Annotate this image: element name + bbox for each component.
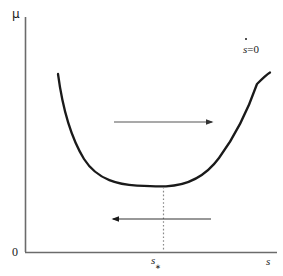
x-axis-label: s bbox=[266, 256, 270, 267]
isocline-label: s=0 bbox=[243, 44, 259, 55]
critical-point-subscript: ∗ bbox=[155, 263, 161, 271]
plot-canvas bbox=[0, 0, 283, 276]
leftward-flow-arrow bbox=[112, 216, 212, 222]
time-derivative-dot-icon bbox=[245, 38, 247, 40]
isocline-variable-letter: s bbox=[243, 43, 247, 55]
y-axis-label: μ bbox=[12, 8, 20, 20]
isocline-equation-rhs: =0 bbox=[247, 43, 259, 55]
origin-label: 0 bbox=[12, 246, 18, 258]
rightward-flow-arrow bbox=[114, 119, 214, 125]
phase-diagram-figure: μ 0 s s∗ s=0 bbox=[0, 0, 283, 276]
isocline-variable: s bbox=[243, 44, 247, 55]
isocline-curve bbox=[58, 73, 270, 187]
critical-point-label: s∗ bbox=[151, 255, 161, 269]
